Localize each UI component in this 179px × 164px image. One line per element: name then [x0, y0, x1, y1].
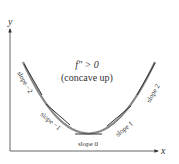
slope-neg1-label: slope −1	[39, 110, 63, 132]
slope-2-label: slope 2	[145, 82, 162, 104]
y-axis-label: y	[7, 16, 13, 27]
slope-0-label: slope 0	[78, 140, 99, 148]
concavity-diagram: y x f″ > 0 (concave up) slope −2 slope −…	[0, 0, 179, 164]
slope-neg2-label: slope −2	[15, 70, 34, 95]
second-derivative-label: f″ > 0	[75, 59, 99, 70]
slope-1-label: slope 1	[114, 119, 135, 138]
concave-up-label: (concave up)	[61, 72, 113, 84]
x-axis-label: x	[160, 145, 166, 156]
